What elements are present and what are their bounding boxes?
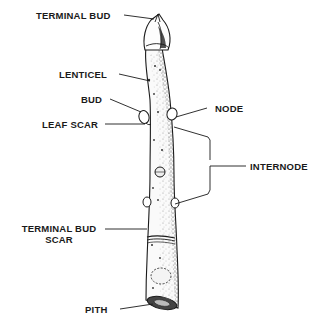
lower-leaf-scar [151,268,171,284]
terminal-bud-shape [144,14,170,50]
leader-node [176,108,207,117]
leader-bud [110,99,141,112]
label-terminal-bud-scar-line1: TERMINAL BUD [14,223,104,234]
label-bud: BUD [81,94,102,105]
label-node: NODE [215,103,243,114]
label-leaf-scar: LEAF SCAR [42,119,98,130]
leader-pith [120,304,153,309]
leader-terminal-bud [124,15,154,19]
mid-leaf-scar [155,167,165,177]
label-terminal-bud: TERMINAL BUD [36,10,111,21]
twig-diagram: TERMINAL BUD LENTICEL BUD LEAF SCAR NODE… [0,0,332,327]
leader-lenticel [119,74,150,81]
label-internode: INTERNODE [250,161,308,172]
label-pith: PITH [85,304,107,315]
label-terminal-bud-scar: TERMINAL BUD SCAR [14,223,104,245]
internode-bracket-top [174,127,210,160]
label-terminal-bud-scar-line2: SCAR [14,234,104,245]
internode-bracket-bottom [175,166,210,204]
label-lenticel: LENTICEL [59,69,107,80]
